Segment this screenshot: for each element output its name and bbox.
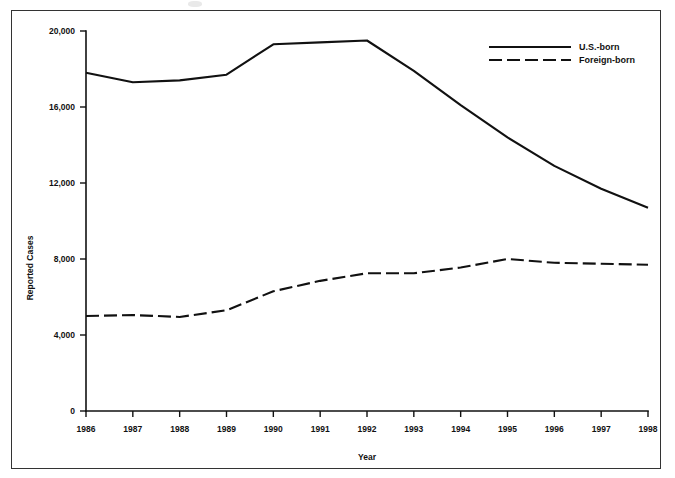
series-line-u-s-born xyxy=(86,41,648,208)
x-tick-label: 1992 xyxy=(358,424,377,434)
x-tick-label: 1991 xyxy=(311,424,330,434)
y-tick-label: 0 xyxy=(70,406,75,416)
chart-legend: U.S.-bornForeign-born xyxy=(489,42,635,65)
y-axis-title: Reported Cases xyxy=(25,235,35,300)
x-tick-label: 1994 xyxy=(451,424,470,434)
data-series-layer xyxy=(86,41,648,317)
x-axis-tick-labels: 1986198719881989199019911992199319941995… xyxy=(77,424,658,434)
x-tick-label: 1997 xyxy=(592,424,611,434)
y-tick-label: 20,000 xyxy=(49,26,75,36)
x-axis-title: Year xyxy=(358,452,377,462)
line-chart-canvas: 04,0008,00012,00016,00020,000 1986198719… xyxy=(0,0,675,478)
y-tick-label: 8,000 xyxy=(54,254,76,264)
x-tick-label: 1986 xyxy=(77,424,96,434)
x-tick-label: 1995 xyxy=(498,424,517,434)
legend-label-foreign-born: Foreign-born xyxy=(579,55,635,65)
x-tick-label: 1996 xyxy=(545,424,564,434)
legend-label-u-s-born: U.S.-born xyxy=(579,42,620,52)
x-tick-label: 1987 xyxy=(123,424,142,434)
x-tick-label: 1988 xyxy=(170,424,189,434)
y-axis-tick-labels: 04,0008,00012,00016,00020,000 xyxy=(49,26,75,416)
x-tick-label: 1998 xyxy=(639,424,658,434)
x-axis-ticks xyxy=(86,411,648,417)
y-tick-label: 4,000 xyxy=(54,330,76,340)
x-tick-label: 1990 xyxy=(264,424,283,434)
y-axis-ticks xyxy=(80,31,86,411)
y-tick-label: 16,000 xyxy=(49,102,75,112)
x-tick-label: 1993 xyxy=(404,424,423,434)
chart-figure: 04,0008,00012,00016,00020,000 1986198719… xyxy=(0,0,675,478)
x-tick-label: 1989 xyxy=(217,424,236,434)
series-line-foreign-born xyxy=(86,259,648,317)
y-tick-label: 12,000 xyxy=(49,178,75,188)
